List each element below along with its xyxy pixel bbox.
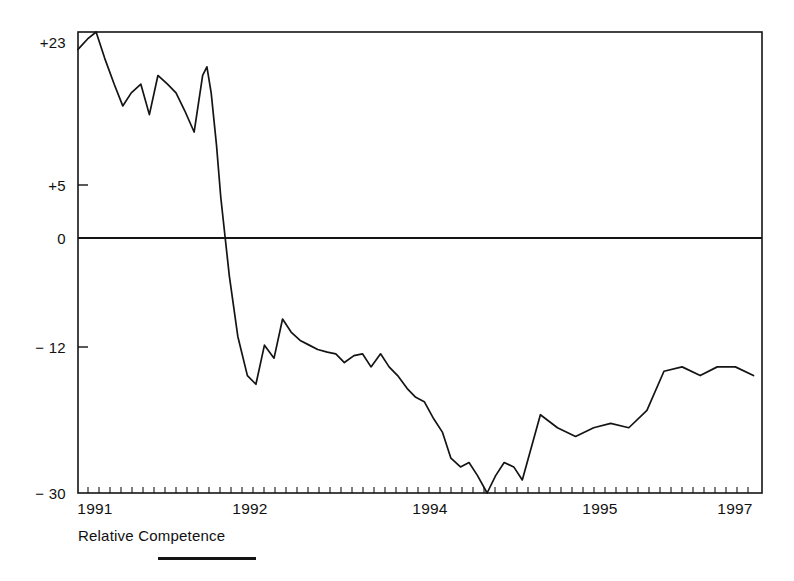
legend-line-swatch — [158, 557, 256, 560]
line-chart-plot — [0, 0, 794, 581]
x-axis-label-1997: 1997 — [697, 500, 773, 518]
y-axis-label-minus-12: − 12 — [4, 339, 66, 356]
x-axis-label-1992: 1992 — [212, 500, 288, 518]
y-axis-label-0: 0 — [4, 230, 66, 247]
series-line-relative-competence — [78, 32, 753, 493]
y-axis-label-23: +23 — [4, 34, 66, 51]
chart-container: +23 +5 0 − 12 − 30 1991 1992 1994 1995 1… — [0, 0, 794, 581]
x-axis-minor-ticks — [88, 487, 748, 493]
x-axis-label-1991: 1991 — [57, 500, 133, 518]
x-axis-label-1995: 1995 — [562, 500, 638, 518]
y-axis-label-5: +5 — [4, 177, 66, 194]
x-axis-label-1994: 1994 — [392, 500, 468, 518]
legend-label-relative-competence: Relative Competence — [78, 527, 225, 544]
y-axis-ticks — [78, 185, 88, 347]
